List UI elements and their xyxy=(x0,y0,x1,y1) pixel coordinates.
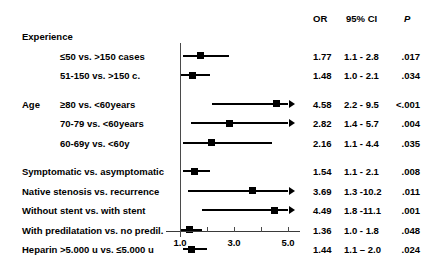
p-value: .034 xyxy=(384,70,420,81)
confidence-interval-value: 1.3 -10.2 xyxy=(344,186,382,197)
row-label: 70-79 vs. <60years xyxy=(60,118,144,129)
row-label: Symptomatic vs. asymptomatic xyxy=(22,166,164,177)
confidence-interval-value: 1.1 – 2.0 xyxy=(344,244,381,255)
odds-ratio-value: 1.44 xyxy=(313,244,332,255)
forest-plot: OR 95% CI P Experience≤50 vs. >150 cases… xyxy=(0,0,428,256)
confidence-interval-value: 2.2 - 9.5 xyxy=(344,99,379,110)
x-axis-tick-label: 3.0 xyxy=(214,237,254,248)
row-label: With predilatation vs. no predil. xyxy=(22,225,163,236)
p-value: .001 xyxy=(384,205,420,216)
p-value: .017 xyxy=(384,51,420,62)
x-axis-tick xyxy=(261,227,262,232)
p-value: .011 xyxy=(384,186,420,197)
ci-overflow-arrow-icon xyxy=(289,100,295,108)
confidence-interval-value: 1.8 -11.1 xyxy=(344,205,381,216)
x-axis-tick xyxy=(207,227,208,232)
p-value: .004 xyxy=(384,118,420,129)
p-value: .024 xyxy=(384,244,420,255)
group-header: Experience xyxy=(22,31,73,42)
confidence-interval-value: 1.4 - 5.7 xyxy=(344,118,379,129)
x-axis-tick xyxy=(234,227,235,232)
x-axis-tick-label: 1.0 xyxy=(160,237,200,248)
odds-ratio-value: 4.58 xyxy=(313,99,332,110)
column-header-or: OR xyxy=(313,13,327,24)
x-axis-tick xyxy=(288,227,289,232)
confidence-interval-value: 1.1 - 2.8 xyxy=(344,51,379,62)
row-label: 60-69y vs. <60y xyxy=(60,138,129,149)
row-label: Without stent vs. with stent xyxy=(22,205,145,216)
row-label: ≥80 vs. <60years xyxy=(60,99,135,110)
reference-line-or-1 xyxy=(180,43,181,238)
row-label: Heparin >5.000 u vs. ≤5.000 u xyxy=(22,244,154,255)
row-label: ≤50 vs. >150 cases xyxy=(60,51,145,62)
ci-overflow-arrow-icon xyxy=(289,187,295,195)
x-axis-line xyxy=(166,231,300,232)
odds-ratio-value: 1.48 xyxy=(313,70,332,81)
odds-ratio-marker xyxy=(226,120,233,127)
confidence-interval-bar xyxy=(188,190,288,192)
ci-overflow-arrow-icon xyxy=(289,206,295,214)
confidence-interval-value: 1.0 - 1.8 xyxy=(344,225,379,236)
odds-ratio-marker xyxy=(197,52,204,59)
odds-ratio-value: 1.54 xyxy=(313,166,332,177)
odds-ratio-value: 1.36 xyxy=(313,225,332,236)
p-value: .048 xyxy=(384,225,420,236)
column-header-p: P xyxy=(404,13,410,24)
odds-ratio-marker xyxy=(273,100,280,107)
odds-ratio-value: 2.16 xyxy=(313,138,332,149)
confidence-interval-bar xyxy=(191,122,288,124)
odds-ratio-marker xyxy=(191,168,198,175)
odds-ratio-value: 2.82 xyxy=(313,118,332,129)
confidence-interval-bar xyxy=(183,55,229,57)
column-header-ci: 95% CI xyxy=(346,13,377,24)
odds-ratio-value: 3.69 xyxy=(313,186,332,197)
p-value: <.001 xyxy=(384,99,420,110)
confidence-interval-bar xyxy=(183,142,272,144)
confidence-interval-value: 1.0 - 2.1 xyxy=(344,70,379,81)
p-value: .035 xyxy=(384,138,420,149)
odds-ratio-marker xyxy=(208,139,215,146)
confidence-interval-value: 1.1 - 2.1 xyxy=(344,166,379,177)
row-label: 51-150 vs. >150 c. xyxy=(60,70,140,81)
p-value: .008 xyxy=(384,166,420,177)
odds-ratio-marker xyxy=(249,187,256,194)
odds-ratio-marker xyxy=(189,72,196,79)
ci-overflow-arrow-icon xyxy=(289,119,295,127)
x-axis-tick-label: 5.0 xyxy=(268,237,308,248)
row-label: Native stenosis vs. recurrence xyxy=(22,186,159,197)
group-prefix-label: Age xyxy=(22,99,40,110)
x-axis-tick xyxy=(180,227,181,232)
odds-ratio-marker xyxy=(271,207,278,214)
confidence-interval-value: 1.1 - 4.4 xyxy=(344,138,379,149)
odds-ratio-value: 1.77 xyxy=(313,51,332,62)
odds-ratio-value: 4.49 xyxy=(313,205,332,216)
